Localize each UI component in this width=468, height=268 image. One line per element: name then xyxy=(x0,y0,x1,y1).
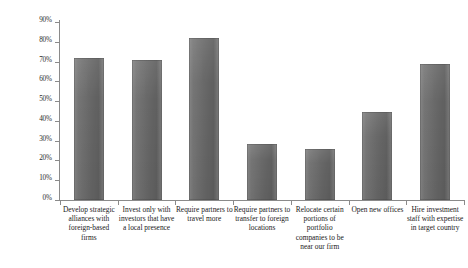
y-axis-tick-label: 10% xyxy=(39,174,52,182)
x-axis-label: Develop strategic alliances with foreign… xyxy=(60,205,118,242)
bar[interactable] xyxy=(420,64,450,200)
x-axis-label: Relocate certain portions of portfolio c… xyxy=(291,205,349,251)
y-axis-tick-label: 80% xyxy=(39,36,52,44)
y-axis-tick-label: 40% xyxy=(39,115,52,123)
bar-slot xyxy=(291,22,349,200)
category-tick-mark xyxy=(464,200,465,205)
bars-container xyxy=(60,22,464,200)
x-axis-label: Require partners to travel more xyxy=(175,205,233,223)
x-axis-labels: Develop strategic alliances with foreign… xyxy=(60,205,464,267)
y-axis-tick-label: 20% xyxy=(39,154,52,162)
bar-slot xyxy=(233,22,291,200)
bar[interactable] xyxy=(362,112,392,200)
x-axis-line xyxy=(59,200,464,201)
y-axis-tick-label: 90% xyxy=(39,16,52,24)
y-axis-tick-label: 0% xyxy=(43,194,52,202)
bar[interactable] xyxy=(74,58,104,200)
bar[interactable] xyxy=(132,60,162,200)
bar-chart: 90%80%70%60%50%40%30%20%10%0% Develop st… xyxy=(0,0,468,268)
bar-slot xyxy=(406,22,464,200)
bar[interactable] xyxy=(247,144,277,200)
x-axis-label: Hire investment staff with expertise in … xyxy=(406,205,464,233)
bar-slot xyxy=(349,22,407,200)
bar-slot xyxy=(175,22,233,200)
bar[interactable] xyxy=(189,38,219,200)
bar-slot xyxy=(60,22,118,200)
y-axis-tick-label: 60% xyxy=(39,75,52,83)
y-axis-tick-label: 30% xyxy=(39,135,52,143)
bar-slot xyxy=(118,22,176,200)
x-axis-label: Require partners to transfer to foreign … xyxy=(233,205,291,233)
y-axis-tick-label: 70% xyxy=(39,56,52,64)
x-axis-label: Invest only with investors that have a l… xyxy=(118,205,176,233)
y-axis-tick-label: 50% xyxy=(39,95,52,103)
bar[interactable] xyxy=(305,149,335,200)
x-axis-label: Open new offices xyxy=(349,205,407,214)
